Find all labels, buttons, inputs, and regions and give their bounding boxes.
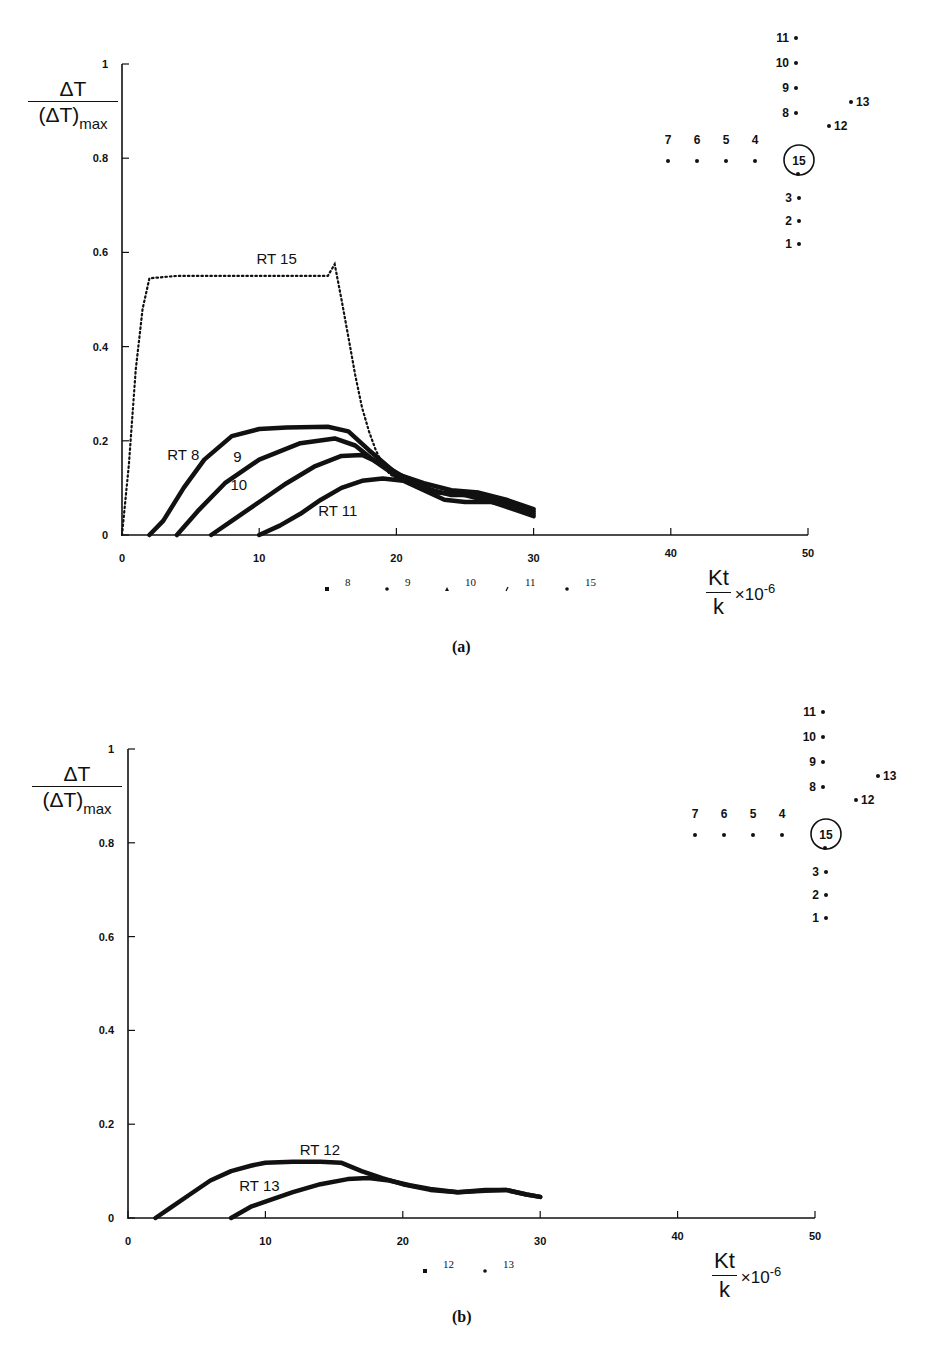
y-tick-label: 0.4 <box>99 1024 115 1036</box>
sensor-label: 15 <box>819 828 833 842</box>
sensor-label: 9 <box>809 755 816 769</box>
x-axis-label: Ktk×10-6 <box>712 1248 781 1303</box>
x-tick-label: 0 <box>125 1235 131 1247</box>
sensor-label: 13 <box>883 769 897 783</box>
y-tick-label: 0.2 <box>99 1118 114 1130</box>
legend-label: 12 <box>443 1258 454 1270</box>
panel-caption: (b) <box>452 1308 472 1326</box>
x-tick-label: 30 <box>534 1235 546 1247</box>
x-tick-label: 10 <box>259 1235 271 1247</box>
sensor-label: 3 <box>812 865 819 879</box>
legend: 1213 <box>423 1258 515 1273</box>
plot-area: 00.20.40.60.8101020304050RT 12RT 1312131… <box>0 680 925 1340</box>
sensor-label: 10 <box>803 730 817 744</box>
sensor-label: 5 <box>750 807 757 821</box>
curve-label: RT 12 <box>300 1141 340 1158</box>
legend-label: 13 <box>503 1258 515 1270</box>
y-tick-label: 0.6 <box>99 931 114 943</box>
sensor-label: 6 <box>721 807 728 821</box>
x-tick-label: 20 <box>397 1235 409 1247</box>
sensor-label: 2 <box>812 888 819 902</box>
chart-panel-b: ΔT (ΔT)max 00.20.40.60.8101020304050RT 1… <box>0 0 925 1347</box>
y-tick-label: 0.8 <box>99 837 114 849</box>
axes: 00.20.40.60.8101020304050 <box>99 743 821 1247</box>
sensor-label: 11 <box>803 705 816 719</box>
sensor-label: 4 <box>779 807 786 821</box>
curve-label: RT 13 <box>239 1177 279 1194</box>
sensor-label: 12 <box>861 793 875 807</box>
x-tick-label: 40 <box>671 1230 683 1242</box>
sensor-label: 1 <box>812 911 819 925</box>
sensor-layout-diagram: 1110987654153211213 <box>692 705 897 925</box>
x-tick-label: 50 <box>809 1230 821 1242</box>
sensor-label: 7 <box>692 807 699 821</box>
sensor-label: 8 <box>809 780 816 794</box>
y-tick-label: 0 <box>108 1212 114 1224</box>
y-tick-label: 1 <box>108 743 114 755</box>
